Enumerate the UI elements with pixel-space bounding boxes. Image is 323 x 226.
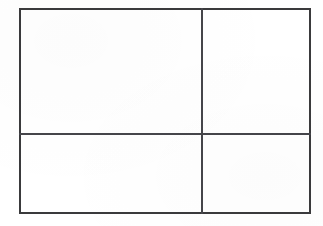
grid-cell-bottom-right xyxy=(202,134,311,214)
diagram-canvas xyxy=(0,0,323,226)
grid-cell-top-right xyxy=(202,8,311,133)
outer-rectangle-frame xyxy=(19,8,311,214)
grid-cell-top-left xyxy=(19,8,201,133)
grid-cell-bottom-left xyxy=(19,134,201,214)
